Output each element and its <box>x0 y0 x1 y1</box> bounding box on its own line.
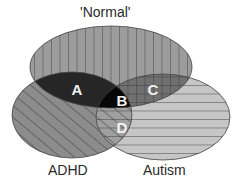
region-b-label: B <box>117 92 128 109</box>
label-adhd: ADHD <box>48 162 88 178</box>
region-a-label: A <box>72 81 83 98</box>
region-c-label: C <box>148 81 159 98</box>
label-autism: Autism <box>143 162 186 178</box>
label-normal: 'Normal' <box>80 4 130 20</box>
region-d-label: D <box>117 119 128 136</box>
